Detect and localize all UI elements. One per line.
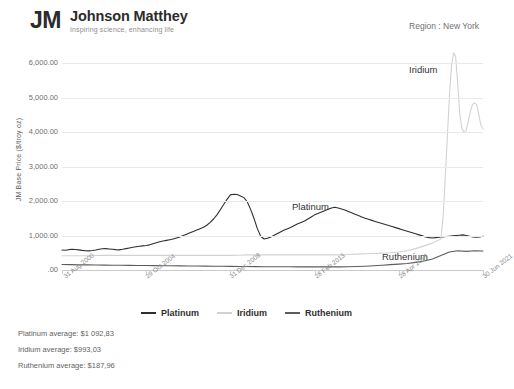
legend-swatch-icon	[217, 312, 232, 314]
gridline	[62, 236, 483, 237]
logo-tagline: Inspiring science, enhancing life	[70, 25, 188, 35]
annotation-iridium: Iridium	[409, 64, 438, 75]
legend-swatch-icon	[285, 312, 300, 314]
gridline	[62, 201, 483, 202]
logo-monogram: JM	[30, 8, 61, 32]
y-tick-label: 4,000.00	[8, 127, 58, 136]
platinum-average: Platinum average: $1 092,83	[18, 326, 318, 342]
legend-swatch-icon	[141, 312, 156, 314]
y-axis-ticks: .001,000.002,000.003,000.004,000.005,000…	[6, 46, 58, 270]
region-label: Region : New York	[409, 21, 479, 31]
plot-area: Iridium Platinum Ruthenium	[62, 46, 483, 270]
legend-item-platinum[interactable]: Platinum	[141, 308, 199, 318]
logo-wordmark: Johnson Matthey Inspiring science, enhan…	[70, 8, 188, 35]
y-tick-label: 6,000.00	[8, 58, 58, 67]
iridium-average: Iridium average: $993,03	[18, 342, 318, 358]
page-header: JM Johnson Matthey Inspiring science, en…	[0, 0, 493, 46]
averages-summary: Platinum average: $1 092,83 Iridium aver…	[18, 326, 318, 374]
legend-item-iridium[interactable]: Iridium	[217, 308, 267, 318]
annotation-platinum: Platinum	[292, 201, 329, 212]
legend-label: Ruthenium	[305, 308, 352, 318]
ruthenium-average: Ruthenium average: $187,96	[18, 358, 318, 374]
gridline	[62, 63, 483, 64]
x-tick-label: 30 Jun 2021	[481, 252, 514, 280]
chart-legend: PlatinumIridiumRuthenium	[0, 308, 493, 318]
brand-logo: JM Johnson Matthey Inspiring science, en…	[30, 8, 188, 35]
legend-label: Iridium	[237, 308, 267, 318]
y-tick-label: 3,000.00	[8, 162, 58, 171]
gridline	[62, 98, 483, 99]
y-tick-label: 1,000.00	[8, 231, 58, 240]
series-line-iridium	[62, 53, 483, 256]
y-tick-label: .00	[8, 265, 58, 274]
y-tick-label: 5,000.00	[8, 93, 58, 102]
series-line-platinum	[62, 194, 483, 251]
gridline	[62, 132, 483, 133]
legend-label: Platinum	[161, 308, 199, 318]
gridline	[62, 167, 483, 168]
logo-company-name: Johnson Matthey	[70, 8, 188, 24]
price-chart: JM Base Price ($/troy oz) .001,000.002,0…	[0, 46, 493, 304]
x-axis-ticks: 31 Aug 200029 Oct 200431 Dec 200828 Feb …	[62, 274, 483, 304]
y-tick-label: 2,000.00	[8, 196, 58, 205]
legend-item-ruthenium[interactable]: Ruthenium	[285, 308, 352, 318]
x-axis-line	[62, 270, 483, 271]
